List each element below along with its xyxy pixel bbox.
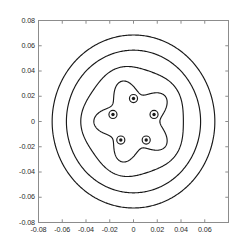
vortex-core-v2: [152, 113, 155, 116]
axes-frame: [39, 21, 229, 223]
contour-outer-contour-3: [81, 67, 184, 177]
y-axis-tick-label: 0.02: [21, 93, 35, 100]
contour-inner-scalloped-contour: [94, 81, 167, 162]
vortex-core-v4: [119, 138, 122, 141]
x-axis-tick-label: 0.04: [174, 226, 188, 233]
x-axis-tick-label: -0.02: [102, 226, 118, 233]
x-axis-tick-label: -0.08: [31, 226, 47, 233]
x-axis-tick-label: 0.06: [198, 226, 212, 233]
y-axis-tick-label: 0.08: [21, 17, 35, 24]
x-axis-tick-label: 0.02: [150, 226, 164, 233]
contour-outer-contour-2: [66, 50, 200, 193]
vortex-core-v1: [132, 97, 135, 100]
x-axis-tick-label: -0.06: [54, 226, 70, 233]
contour-outer-contour-1: [52, 35, 215, 208]
x-axis-tick-label: -0.04: [78, 226, 94, 233]
contour-plot-figure: -0.08-0.06-0.04-0.0200.020.040.060.08-0.…: [0, 0, 250, 252]
plot-canvas: [0, 0, 250, 252]
y-axis-tick-label: 0.04: [21, 67, 35, 74]
vortex-core-v3: [145, 138, 148, 141]
vortex-core-v5: [111, 113, 114, 116]
x-axis-tick-label: 0: [132, 226, 136, 233]
y-axis-tick-label: 0: [31, 118, 35, 125]
y-axis-tick-label: -0.04: [19, 168, 35, 175]
y-axis-tick-label: -0.06: [19, 194, 35, 201]
y-axis-tick-label: -0.02: [19, 143, 35, 150]
y-axis-tick-label: 0.06: [21, 42, 35, 49]
